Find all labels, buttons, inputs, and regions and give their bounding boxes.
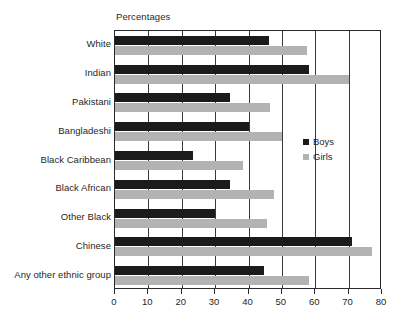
bar-girls (115, 190, 274, 199)
legend-item: Girls (303, 151, 333, 163)
legend-label: Boys (313, 137, 334, 147)
category-label: White (3, 38, 111, 49)
axis-tick-label: 70 (342, 296, 353, 307)
axis-tick-label: 20 (175, 296, 186, 307)
axis-tick (114, 289, 115, 294)
bar-boys (115, 266, 264, 275)
legend-label: Girls (313, 152, 333, 162)
category-label: Bangladeshi (3, 125, 111, 136)
category-label: Any other ethnic group (3, 269, 111, 280)
bar-girls (115, 247, 372, 256)
axis-tick (214, 289, 215, 294)
bar-chart: Percentages WhiteIndianPakistaniBanglade… (0, 0, 402, 322)
axis-tick-label: 50 (276, 296, 287, 307)
axis-tick (147, 289, 148, 294)
bar-girls (115, 276, 309, 285)
category-label: Pakistani (3, 96, 111, 107)
bar-girls (115, 103, 270, 112)
bar-boys (115, 122, 249, 131)
legend-swatch-icon (303, 154, 309, 160)
category-label: Indian (3, 67, 111, 78)
category-label: Black African (3, 182, 111, 193)
axis-tick (348, 289, 349, 294)
bar-group (115, 36, 380, 55)
bar-boys (115, 36, 269, 45)
category-label: Other Black (3, 211, 111, 222)
axis-tick-label: 0 (111, 296, 116, 307)
axis-tick (314, 289, 315, 294)
legend-item: Boys (303, 136, 334, 148)
bar-group (115, 65, 380, 84)
bar-group (115, 237, 380, 256)
bar-boys (115, 180, 230, 189)
bar-boys (115, 151, 193, 160)
bar-girls (115, 161, 243, 170)
axis-tick (248, 289, 249, 294)
bar-group (115, 180, 380, 199)
bar-girls (115, 132, 282, 141)
bar-boys (115, 93, 230, 102)
axis-tick-label: 80 (376, 296, 387, 307)
axis-tick-label: 40 (242, 296, 253, 307)
legend-swatch-icon (303, 139, 309, 145)
bar-group (115, 209, 380, 228)
chart-legend: BoysGirls (303, 136, 355, 166)
axis-tick-label: 30 (209, 296, 220, 307)
axis-tick-label: 10 (142, 296, 153, 307)
axis-tick-label: 60 (309, 296, 320, 307)
bar-boys (115, 65, 309, 74)
category-axis-labels: WhiteIndianPakistaniBangladeshiBlack Car… (0, 30, 111, 289)
category-label: Black Caribbean (3, 154, 111, 165)
axis-tick (181, 289, 182, 294)
bar-boys (115, 209, 215, 218)
bar-group (115, 93, 380, 112)
chart-axis-title: Percentages (116, 11, 170, 22)
value-axis: 01020304050607080 (114, 289, 381, 322)
axis-tick (381, 289, 382, 294)
bar-group (115, 266, 380, 285)
bar-girls (115, 219, 267, 228)
axis-tick (281, 289, 282, 294)
bar-boys (115, 237, 352, 246)
bar-girls (115, 46, 307, 55)
bar-girls (115, 75, 349, 84)
category-label: Chinese (3, 240, 111, 251)
